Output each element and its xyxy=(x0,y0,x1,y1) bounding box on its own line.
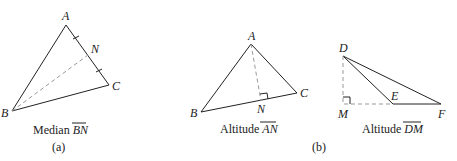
label-a-b: A xyxy=(247,29,256,43)
figure-b-altitude-dm: D E F M Altitude DM xyxy=(337,41,446,136)
label-b: B xyxy=(1,106,9,120)
label-c-b: C xyxy=(300,86,309,100)
geometry-diagram: A B C N Median BN (a) A B C N Altitude A… xyxy=(0,0,457,161)
right-angle-mark-m xyxy=(343,97,350,104)
triangle-abc-a xyxy=(12,25,109,111)
right-angle-mark-n xyxy=(260,93,268,99)
median-bn xyxy=(12,55,88,111)
label-n-b: N xyxy=(256,102,266,116)
caption-a: Median BN xyxy=(33,123,89,137)
sublabel-b: (b) xyxy=(312,140,326,154)
label-f: F xyxy=(437,107,446,121)
label-n: N xyxy=(90,42,100,56)
caption-b2: Altitude DM xyxy=(362,122,424,136)
triangle-abc-b xyxy=(201,44,297,112)
label-e: E xyxy=(390,89,399,103)
label-d: D xyxy=(338,41,348,55)
caption-b1: Altitude AN xyxy=(220,122,279,136)
label-m: M xyxy=(337,107,349,121)
sublabel-a: (a) xyxy=(52,140,65,154)
label-b-b: B xyxy=(190,106,198,120)
figure-b-altitude-an: A B C N Altitude AN xyxy=(190,29,309,136)
figure-a-median: A B C N Median BN (a) xyxy=(1,9,121,154)
label-a: A xyxy=(61,9,70,23)
label-c: C xyxy=(112,79,121,93)
